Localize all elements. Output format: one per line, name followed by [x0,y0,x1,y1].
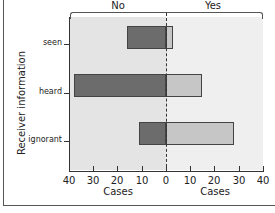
xtick [214,166,215,172]
zero-line [166,13,167,172]
xtick [93,166,94,172]
y-axis [69,17,70,172]
xtick [239,166,240,172]
xtick-label: 30 [229,175,249,186]
xtick [117,166,118,172]
xtick [166,166,167,172]
brace-yes [166,12,263,19]
category-label-heard: heard [6,87,62,96]
xtick-label: 10 [180,175,200,186]
xtick-label: 20 [204,175,224,186]
xtick [142,166,143,172]
xtick-label: 30 [83,175,103,186]
x-axis-label-left: Cases [93,186,143,197]
category-label-ignorant: ignorant [6,135,62,144]
xtick [190,166,191,172]
group-label-no: No [88,0,148,11]
bar-yes-seen [166,26,173,49]
bar-yes-ignorant [166,122,234,145]
ytick-ignorant [64,141,69,142]
xtick-label: 20 [107,175,127,186]
category-label-seen: seen [6,38,62,47]
xtick [263,166,264,172]
x-axis-label-right: Cases [190,186,240,197]
y-axis-label: Receiver information [16,51,27,155]
ytick-heard [64,93,69,94]
bar-no-heard [74,74,166,97]
group-label-yes: Yes [183,0,243,11]
brace-no [70,12,167,19]
ytick-seen [64,44,69,45]
xtick [69,166,70,172]
bar-yes-heard [166,74,202,97]
xtick-label: 10 [132,175,152,186]
bar-no-seen [127,26,166,49]
xtick-label: 0 [156,175,176,186]
bar-no-ignorant [139,122,166,145]
xtick-label: 40 [59,175,79,186]
xtick-label: 40 [253,175,273,186]
